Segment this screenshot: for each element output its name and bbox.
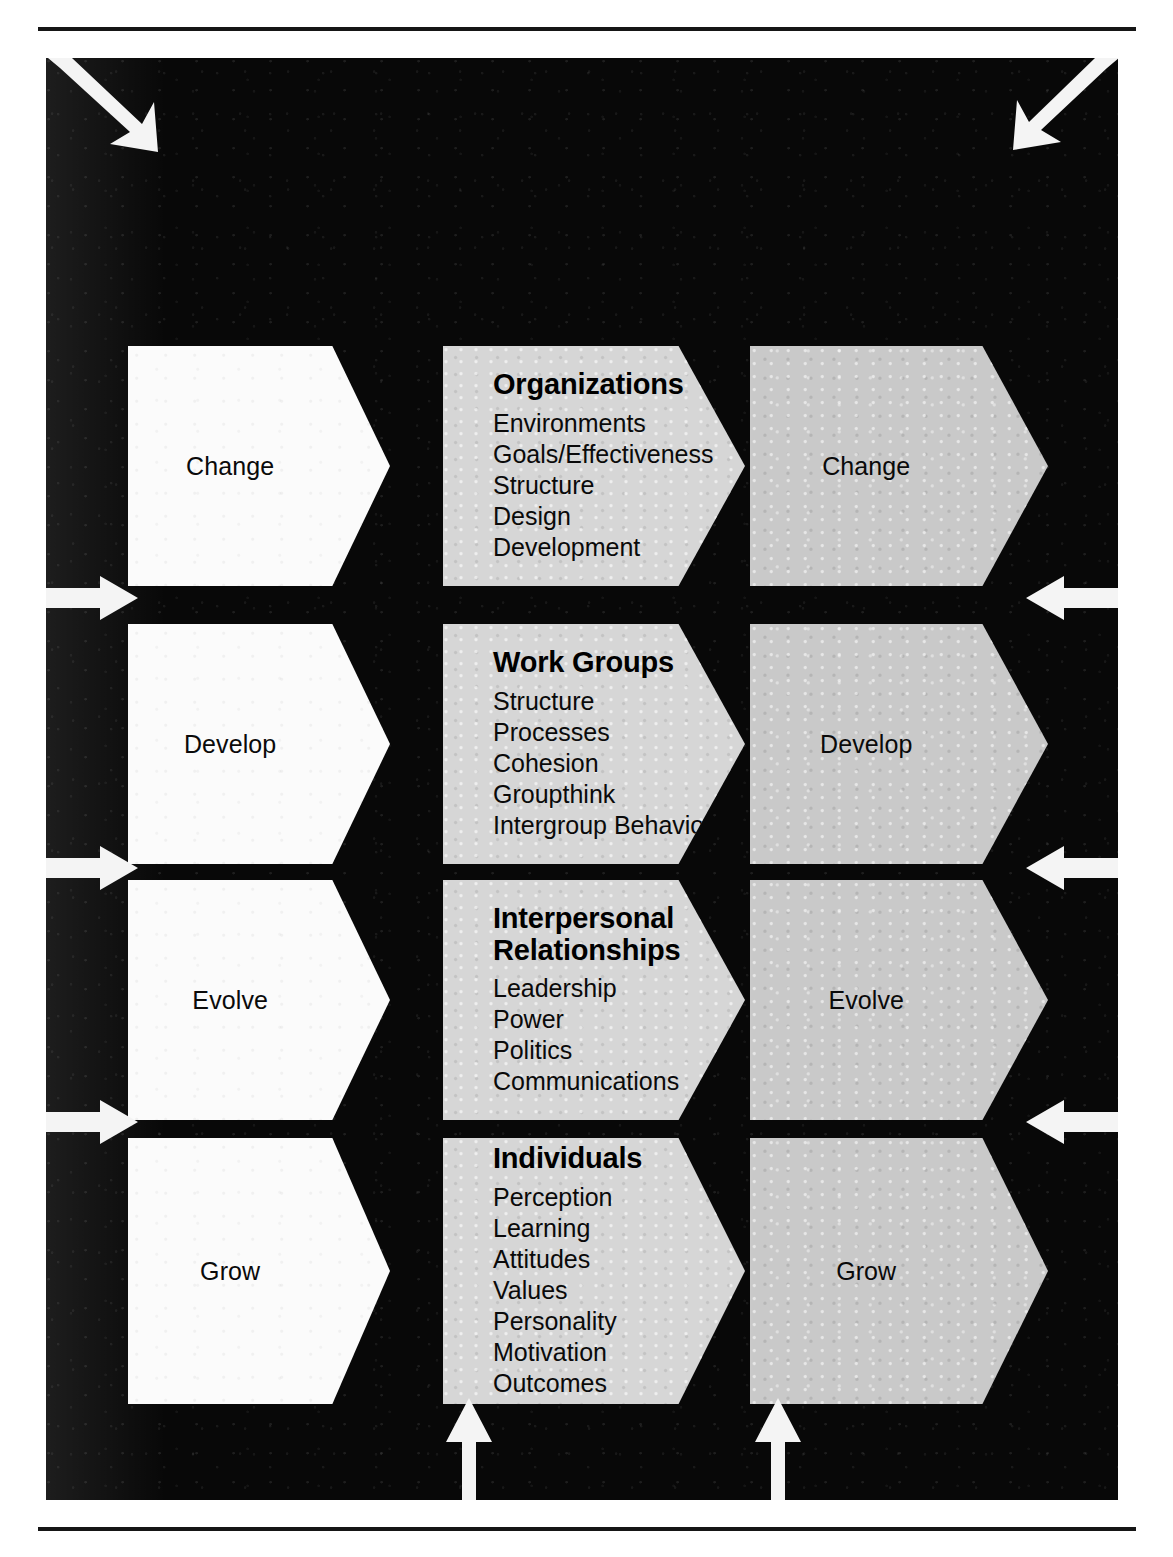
center-card-body-row-3: Interpersonal Relationships Leadership P… <box>443 903 745 1097</box>
center-card-list-row-4: Perception Learning Attitudes Values Per… <box>493 1182 735 1399</box>
bottom-feedback-arrow-1 <box>442 1398 496 1500</box>
page-rule-top <box>38 27 1136 31</box>
center-card-body-row-2: Work Groups Structure Processes Cohesion… <box>443 647 745 840</box>
center-card-list-row-3: Leadership Power Politics Communications <box>493 973 735 1097</box>
figure-panel: Change Organizations Environments Goals/… <box>46 58 1118 1500</box>
right-chevron-row-3: Evolve <box>750 880 1048 1120</box>
list-item: Motivation <box>493 1337 735 1368</box>
list-item: Structure <box>493 686 735 717</box>
bottom-feedback-arrow-2 <box>751 1398 805 1500</box>
left-feedback-arrow-1 <box>46 576 138 620</box>
left-chevron-row-2: Develop <box>128 624 390 864</box>
right-chevron-label-row-1: Change <box>750 452 982 481</box>
page-rule-bottom <box>38 1527 1136 1531</box>
list-item: Leadership <box>493 973 735 1004</box>
list-item: Intergroup Behavior <box>493 810 735 841</box>
list-item: Processes <box>493 717 735 748</box>
center-card-body-row-1: Organizations Environments Goals/Effecti… <box>443 369 745 562</box>
top-left-diagonal-arrow <box>46 58 176 168</box>
center-card-body-row-4: Individuals Perception Learning Attitude… <box>443 1143 745 1398</box>
left-chevron-row-1: Change <box>128 346 390 586</box>
list-item: Attitudes <box>493 1244 735 1275</box>
center-card-title-row-4: Individuals <box>493 1143 735 1174</box>
list-item: Structure <box>493 470 735 501</box>
left-chevron-label-row-3: Evolve <box>128 986 332 1015</box>
center-card-title-line-2: Relationships <box>493 935 735 966</box>
left-chevron-row-4: Grow <box>128 1138 390 1404</box>
list-item: Groupthink <box>493 779 735 810</box>
right-chevron-label-row-2: Develop <box>750 730 982 759</box>
right-chevron-row-2: Develop <box>750 624 1048 864</box>
chevron-grid: Change Organizations Environments Goals/… <box>46 58 1118 1500</box>
left-chevron-label-row-2: Develop <box>128 730 332 759</box>
left-chevron-label-row-1: Change <box>128 452 332 481</box>
list-item: Environments <box>493 408 735 439</box>
right-feedback-arrow-2 <box>1026 846 1118 890</box>
list-item: Development <box>493 532 735 563</box>
center-card-title-row-2: Work Groups <box>493 647 735 678</box>
list-item: Design <box>493 501 735 532</box>
right-chevron-row-4: Grow <box>750 1138 1048 1404</box>
left-chevron-label-row-4: Grow <box>128 1257 332 1286</box>
center-card-title-row-1: Organizations <box>493 369 735 400</box>
list-item: Communications <box>493 1066 735 1097</box>
center-card-list-row-2: Structure Processes Cohesion Groupthink … <box>493 686 735 841</box>
left-feedback-arrow-3 <box>46 1100 138 1144</box>
right-feedback-arrow-1 <box>1026 576 1118 620</box>
center-chevron-row-3: Interpersonal Relationships Leadership P… <box>443 880 745 1120</box>
right-chevron-row-1: Change <box>750 346 1048 586</box>
right-feedback-arrow-3 <box>1026 1100 1118 1144</box>
center-chevron-row-4: Individuals Perception Learning Attitude… <box>443 1138 745 1404</box>
center-chevron-row-2: Work Groups Structure Processes Cohesion… <box>443 624 745 864</box>
list-item: Goals/Effectiveness <box>493 439 735 470</box>
list-item: Personality <box>493 1306 735 1337</box>
right-chevron-label-row-4: Grow <box>750 1257 982 1286</box>
center-card-list-row-1: Environments Goals/Effectiveness Structu… <box>493 408 735 563</box>
list-item: Cohesion <box>493 748 735 779</box>
list-item: Politics <box>493 1035 735 1066</box>
list-item: Perception <box>493 1182 735 1213</box>
center-card-title-line-1: Interpersonal <box>493 903 735 934</box>
list-item: Outcomes <box>493 1368 735 1399</box>
top-right-diagonal-arrow <box>1001 58 1118 168</box>
list-item: Learning <box>493 1213 735 1244</box>
center-chevron-row-1: Organizations Environments Goals/Effecti… <box>443 346 745 586</box>
center-card-title-row-3: Interpersonal Relationships <box>493 903 735 966</box>
right-chevron-label-row-3: Evolve <box>750 986 982 1015</box>
left-chevron-row-3: Evolve <box>128 880 390 1120</box>
left-feedback-arrow-2 <box>46 846 138 890</box>
list-item: Power <box>493 1004 735 1035</box>
list-item: Values <box>493 1275 735 1306</box>
